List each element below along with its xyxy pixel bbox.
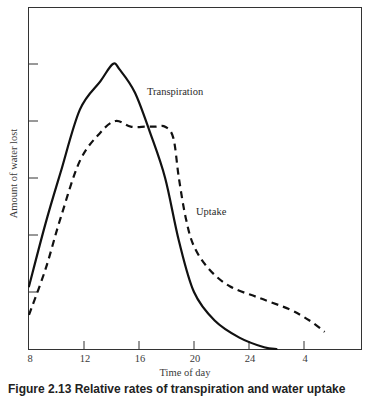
x-tick-label: 8 (27, 353, 32, 364)
plot-frame (29, 8, 362, 350)
x-tick-label: 16 (135, 353, 146, 364)
y-axis-label: Amount of water lost (8, 109, 19, 239)
figure-caption: Figure 2.13 Relative rates of transpirat… (8, 382, 345, 396)
x-tick-label: 4 (302, 353, 307, 364)
x-tick-label: 20 (190, 353, 201, 364)
x-tick-label: 24 (245, 353, 256, 364)
x-axis-label: Time of day (0, 367, 370, 378)
transpiration-curve (29, 63, 277, 349)
uptake-label: Uptake (196, 206, 226, 217)
transpiration-label: Transpiration (147, 86, 203, 97)
x-tick-label: 12 (80, 353, 91, 364)
uptake-curve (29, 121, 325, 332)
